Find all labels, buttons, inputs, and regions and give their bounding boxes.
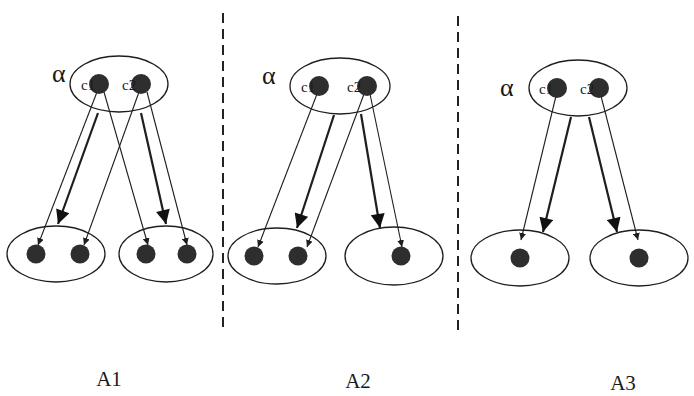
panel-label-a1: A1 bbox=[96, 367, 122, 391]
thin-arrow bbox=[370, 94, 402, 247]
thin-arrow bbox=[258, 94, 317, 247]
thick-arrow bbox=[361, 114, 380, 228]
mapping-diagram: c1c2αA1c1c2αA2c1c2αA3 bbox=[0, 0, 694, 396]
node-label-c1: c1 bbox=[539, 81, 553, 97]
node-label-c2: c2 bbox=[122, 77, 136, 93]
target-node bbox=[392, 247, 411, 266]
thick-arrow bbox=[58, 113, 98, 224]
panel-a3: c1c2αA3 bbox=[471, 60, 688, 395]
thin-arrow bbox=[521, 96, 556, 240]
thick-arrow bbox=[589, 117, 617, 232]
target-node bbox=[71, 245, 90, 264]
target-node bbox=[245, 247, 264, 266]
node-label-c1: c1 bbox=[81, 77, 95, 93]
panel-label-a3: A3 bbox=[610, 371, 636, 395]
thick-arrow bbox=[141, 113, 166, 224]
target-node bbox=[27, 245, 46, 264]
node-label-c1: c1 bbox=[301, 79, 315, 95]
target-node bbox=[289, 247, 308, 266]
diagram-canvas: c1c2αA1c1c2αA2c1c2αA3 bbox=[0, 0, 694, 396]
target-node bbox=[137, 245, 156, 264]
node-label-c2: c2 bbox=[347, 79, 361, 95]
thin-arrow bbox=[84, 92, 139, 245]
alpha-symbol: α bbox=[52, 59, 66, 88]
target-ellipse-2 bbox=[119, 226, 213, 282]
target-ellipse-1 bbox=[7, 226, 105, 282]
panel-label-a2: A2 bbox=[345, 369, 371, 393]
panel-a1: c1c2αA1 bbox=[7, 56, 213, 391]
panel-a2: c1c2αA2 bbox=[228, 58, 443, 393]
target-node bbox=[630, 249, 649, 268]
thin-arrow bbox=[601, 96, 638, 240]
target-node bbox=[511, 249, 530, 268]
alpha-symbol: α bbox=[500, 73, 514, 102]
thin-arrow bbox=[38, 92, 97, 245]
target-node bbox=[178, 245, 197, 264]
panels: c1c2αA1c1c2αA2c1c2αA3 bbox=[7, 56, 688, 395]
alpha-symbol: α bbox=[262, 61, 276, 90]
node-label-c2: c2 bbox=[580, 81, 594, 97]
